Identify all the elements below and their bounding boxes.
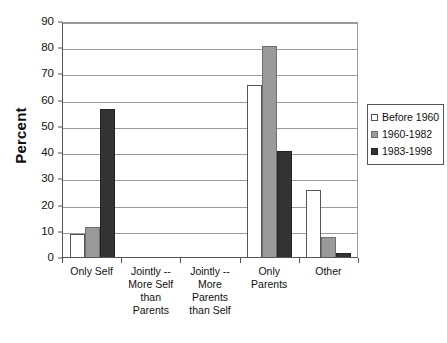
x-axis-category-label: Other	[299, 265, 358, 317]
bar	[100, 109, 115, 258]
legend-item-label: 1983-1998	[382, 146, 432, 157]
bar	[247, 85, 262, 258]
y-axis-tick-label: 90	[41, 16, 54, 28]
x-axis-tick-mark	[121, 258, 122, 263]
y-axis-title: Percent	[4, 0, 36, 270]
x-axis-category-label: Only Self	[62, 265, 121, 317]
y-axis-tick-label: 80	[41, 42, 54, 54]
legend-swatch-icon	[371, 148, 378, 155]
x-axis-category-label-line: than	[122, 291, 179, 304]
x-axis-tick-mark	[180, 258, 181, 263]
bar-groups	[63, 23, 358, 258]
bar-group-bars	[63, 23, 122, 258]
x-axis-tick-mark	[62, 258, 63, 263]
bar-group	[181, 23, 240, 258]
x-axis-category-label-line: Only Self	[63, 265, 120, 278]
x-axis-category-label-line: Only	[241, 265, 298, 278]
bar-group-bars	[181, 23, 240, 258]
y-axis-tick-label: 50	[41, 121, 54, 133]
x-axis-category-label-line: More	[181, 278, 238, 291]
bar-group-bars	[122, 23, 181, 258]
legend-item: 1960-1982	[371, 126, 439, 143]
legend-swatch-icon	[371, 114, 378, 121]
x-axis-category-label-line: Other	[300, 265, 357, 278]
y-axis-tick-label: 10	[41, 226, 54, 238]
legend-item-label: 1960-1982	[382, 129, 432, 140]
x-axis-tick-mark	[299, 258, 300, 263]
y-axis-tick-label: 40	[41, 147, 54, 159]
bar-group	[122, 23, 181, 258]
x-axis-category-label: OnlyParents	[240, 265, 299, 317]
bar-group	[63, 23, 122, 258]
y-axis-tick-label: 70	[41, 69, 54, 81]
y-axis-tick-labels: 9080706050403020100	[34, 22, 58, 258]
bar-group	[240, 23, 299, 258]
x-axis-category-label-line: Jointly --	[122, 265, 179, 278]
x-axis-category-label-line: Parents	[241, 278, 298, 291]
y-axis-title-text: Percent	[12, 107, 29, 163]
bar	[277, 151, 292, 259]
y-axis-tick-label: 60	[41, 95, 54, 107]
x-axis-category-label: Jointly --More SelfthanParents	[121, 265, 180, 317]
x-axis-category-label-line: Parents	[181, 291, 238, 304]
y-axis-tick-label: 20	[41, 200, 54, 212]
x-axis-category-label: Jointly --MoreParentsthan Self	[180, 265, 239, 317]
plot-area	[62, 22, 358, 258]
legend-swatch-icon	[371, 131, 378, 138]
x-axis-tick-marks	[62, 258, 358, 263]
legend-item: 1983-1998	[371, 143, 439, 160]
y-axis-tick-label: 0	[48, 252, 54, 264]
bar	[306, 190, 321, 258]
bar	[262, 46, 277, 258]
bar	[70, 234, 85, 258]
chart-legend: Before 19601960-19821983-1998	[367, 104, 444, 165]
x-axis-tick-mark	[240, 258, 241, 263]
x-axis-category-label-line: than Self	[181, 304, 238, 317]
y-axis-tick-label: 30	[41, 174, 54, 186]
bar-chart: Percent 9080706050403020100 Only SelfJoi…	[0, 0, 447, 343]
bar-group-bars	[240, 23, 299, 258]
bar-group-bars	[299, 23, 358, 258]
legend-item-label: Before 1960	[382, 112, 439, 123]
bar	[85, 227, 100, 258]
x-axis-tick-mark	[358, 258, 359, 263]
x-axis-category-labels: Only SelfJointly --More SelfthanParentsJ…	[62, 265, 358, 317]
x-axis-category-label-line: More Self	[122, 278, 179, 291]
x-axis-category-label-line: Parents	[122, 304, 179, 317]
x-axis-category-label-line: Jointly --	[181, 265, 238, 278]
bar-group	[299, 23, 358, 258]
legend-item: Before 1960	[371, 109, 439, 126]
bar	[321, 237, 336, 258]
